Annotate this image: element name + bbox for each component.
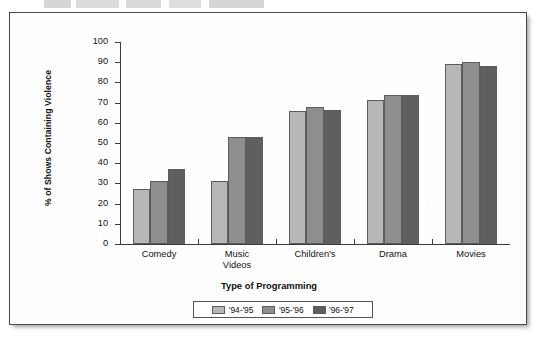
bar-music-videos-0: [211, 181, 229, 244]
y-axis-tick: [115, 244, 121, 245]
legend-swatch-icon: [313, 306, 326, 314]
y-axis-tick-label: 20: [82, 199, 108, 208]
bar-children-s-2: [324, 110, 342, 244]
x-axis-group-separator: [354, 239, 355, 245]
bar-drama-1: [384, 95, 402, 244]
figure-frame: % of Shows Containing Violence Type of P…: [9, 12, 527, 325]
x-axis-group-separator: [432, 239, 433, 245]
bar-movies-0: [445, 64, 463, 244]
bar-children-s-1: [306, 107, 324, 244]
legend-swatch-icon: [212, 306, 225, 314]
cropped-caption-sliver: [44, 0, 294, 8]
y-axis-tick: [115, 143, 121, 144]
legend-item-0: '94-'95: [212, 305, 253, 315]
y-axis-tick: [115, 82, 121, 83]
x-axis-category-label: Children's: [276, 249, 354, 260]
bar-drama-0: [367, 100, 385, 244]
x-axis-title: Type of Programming: [10, 280, 528, 291]
y-axis-tick-label: 30: [82, 178, 108, 187]
y-axis-tick: [115, 103, 121, 104]
y-axis-tick-label: 80: [82, 77, 108, 86]
y-axis-tick-label: 0: [82, 239, 108, 248]
y-axis-tick: [115, 163, 121, 164]
bar-comedy-1: [150, 181, 168, 244]
y-axis-tick: [115, 42, 121, 43]
y-axis-tick-label: 10: [82, 219, 108, 228]
x-axis-category-label: Movies: [432, 249, 510, 260]
y-axis-tick-label: 50: [82, 138, 108, 147]
bar-movies-2: [480, 66, 498, 244]
legend-label: '95-'96: [279, 305, 304, 315]
bar-music-videos-2: [246, 137, 264, 244]
bar-comedy-0: [133, 189, 151, 244]
bars-container: [120, 42, 510, 244]
x-axis-category-label: Comedy: [120, 249, 198, 260]
x-axis-group-separator: [276, 239, 277, 245]
chart-legend: '94-'95'95-'96'96-'97: [193, 301, 373, 318]
bar-comedy-2: [168, 169, 186, 244]
bar-drama-2: [402, 95, 420, 244]
chart-plot-area: % of Shows Containing Violence Type of P…: [10, 13, 528, 326]
bar-music-videos-1: [228, 137, 246, 244]
legend-swatch-icon: [262, 306, 275, 314]
x-axis-category-label: Drama: [354, 249, 432, 260]
y-axis-tick-label: 100: [82, 37, 108, 46]
y-axis-tick: [115, 204, 121, 205]
x-axis-category-label: Music Videos: [198, 249, 276, 271]
y-axis-tick-label: 40: [82, 158, 108, 167]
y-axis-tick-label: 60: [82, 118, 108, 127]
y-axis-tick: [115, 123, 121, 124]
y-axis-tick: [115, 62, 121, 63]
legend-item-2: '96-'97: [313, 305, 354, 315]
x-axis-line: [120, 244, 510, 245]
legend-item-1: '95-'96: [262, 305, 303, 315]
y-axis-title: % of Shows Containing Violence: [43, 48, 53, 228]
screenshot-root: % of Shows Containing Violence Type of P…: [0, 0, 545, 342]
bar-movies-1: [462, 62, 480, 244]
y-axis-tick: [115, 224, 121, 225]
legend-label: '96-'97: [329, 305, 354, 315]
bar-children-s-0: [289, 111, 307, 244]
x-axis-group-separator: [198, 239, 199, 245]
y-axis-tick-label: 70: [82, 98, 108, 107]
y-axis-tick: [115, 183, 121, 184]
y-axis-tick-label: 90: [82, 57, 108, 66]
legend-label: '94-'95: [229, 305, 254, 315]
